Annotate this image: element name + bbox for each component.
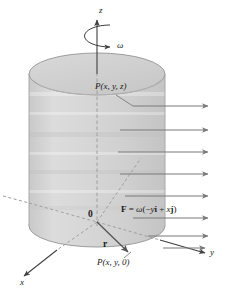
field-equation-equals: = [127,204,137,214]
x-axis-label: x [20,278,24,287]
field-equation-plus: + [157,204,167,214]
field-equation-close: ) [174,204,177,214]
omega-label: ω [117,41,123,50]
negative-y-axis-dashed [3,196,29,203]
figure-canvas [0,0,228,293]
radius-vector-label: r [103,240,107,250]
rotating-cylinder-figure: z ω P(x, y, z) 0 r P(x, y, 0) x y F = ω(… [0,0,228,293]
y-axis [160,240,205,253]
field-equation-open: (− [142,204,150,214]
x-axis [24,250,57,276]
y-axis-label: y [210,248,214,257]
z-axis-label: z [99,6,103,15]
field-equation-label: F = ω(−yi + xj) [121,205,177,214]
origin-label: 0 [88,210,93,220]
point-lower-label: P(x, y, 0) [97,258,129,267]
point-upper-label: P(x, y, z) [95,82,127,91]
